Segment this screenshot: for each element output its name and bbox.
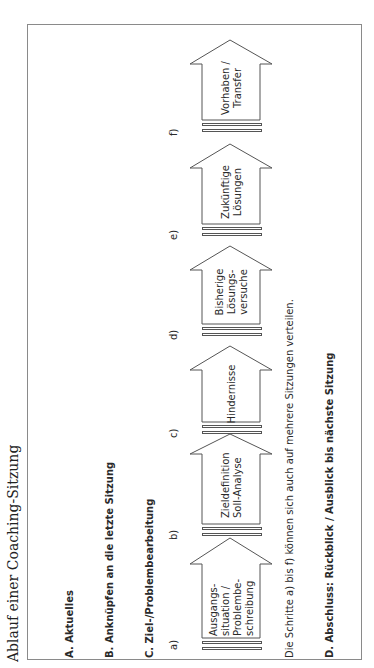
step-text: Zieldefinition Soll-Analyse [204, 458, 260, 518]
step-label: a) [168, 640, 179, 650]
step-bar [202, 425, 262, 428]
step-label: e) [168, 230, 179, 240]
step-bar [202, 641, 262, 644]
step-bar [202, 647, 262, 650]
step-bar [202, 227, 262, 230]
steps-note: Die Schritte a) bis f) können sich auch … [284, 299, 295, 658]
step-label: c) [168, 429, 179, 438]
step-a: a) Ausgangs- situation / Problembe- schr… [190, 550, 276, 652]
step-bar [202, 327, 262, 330]
section-b: B. Anknüpfen an die letzte Sitzung [104, 462, 115, 658]
step-d: d) Bisherige Lösungs- versuche [190, 246, 276, 348]
step-bar [202, 527, 262, 530]
section-c: C. Ziel-/Problembearbeitung [144, 499, 155, 658]
section-d: D. Abschluss: Rückblick / Ausblick bis n… [324, 353, 335, 658]
step-text: Hindernisse [204, 364, 260, 424]
step-label: d) [168, 330, 179, 340]
step-f: f) Vorhaben / Transfer [190, 42, 276, 144]
step-c: c) Hindernisse [190, 344, 276, 446]
section-a: A. Aktuelles [64, 590, 75, 658]
diagram-title: Ablauf einer Coaching-Sitzung [5, 445, 21, 662]
step-text: Bisherige Lösungs- versuche [204, 262, 260, 322]
step-text: Vorhaben / Transfer [204, 58, 260, 118]
step-bar [202, 533, 262, 536]
step-label: f) [168, 129, 179, 136]
step-e: e) Zukünftige Lösungen [190, 146, 276, 248]
step-b: b) Zieldefinition Soll-Analyse [190, 446, 276, 548]
step-bar [202, 333, 262, 336]
step-label: b) [168, 530, 179, 540]
step-text: Ausgangs- situation / Problembe- schreib… [204, 576, 260, 636]
step-text: Zukünftige Lösungen [204, 162, 260, 222]
step-bar [202, 431, 262, 434]
diagram-canvas: Ablauf einer Coaching-Sitzung A. Aktuell… [0, 0, 374, 668]
step-bar [202, 233, 262, 236]
step-bar [202, 129, 262, 132]
step-bar [202, 123, 262, 126]
